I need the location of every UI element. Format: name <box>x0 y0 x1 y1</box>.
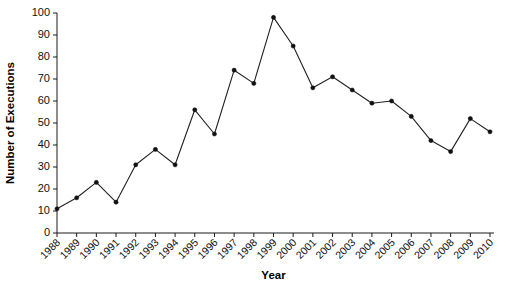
data-point-marker <box>488 130 492 134</box>
series-line-executions <box>57 17 490 208</box>
x-axis-tick-label: 2008 <box>431 236 456 261</box>
data-point-marker <box>468 117 472 121</box>
x-axis-tick-label: 2003 <box>333 236 358 261</box>
x-axis: 1988198919901991199219931994199519961997… <box>37 233 495 261</box>
x-axis-tick-label: 1990 <box>77 236 102 261</box>
y-axis-tick-label: 40 <box>38 138 50 150</box>
x-axis-tick-label: 1997 <box>215 236 240 261</box>
data-point-marker <box>173 163 177 167</box>
x-axis-tick-label: 2006 <box>392 236 417 261</box>
y-axis-tick-label: 30 <box>38 160 50 172</box>
x-axis-tick-label: 2004 <box>352 236 377 261</box>
data-point-marker <box>271 15 275 19</box>
data-point-marker <box>252 81 256 85</box>
data-point-marker <box>232 68 236 72</box>
chart-figure: 0102030405060708090100 19881989199019911… <box>0 0 520 290</box>
data-point-marker <box>193 108 197 112</box>
data-point-marker <box>409 114 413 118</box>
x-axis-tick-label: 1994 <box>156 236 181 261</box>
y-axis-tick-label: 70 <box>38 72 50 84</box>
data-point-marker <box>370 101 374 105</box>
x-axis-tick-label: 1996 <box>195 236 220 261</box>
x-axis-tick-label: 2007 <box>411 236 436 261</box>
x-axis-tick-label: 2000 <box>274 236 299 261</box>
y-axis-tick-label: 90 <box>38 28 50 40</box>
x-axis-tick-label: 2005 <box>372 236 397 261</box>
x-axis-tick-label: 2002 <box>313 236 338 261</box>
y-axis-title: Number of Executions <box>4 62 16 184</box>
y-axis-tick-label: 20 <box>38 182 50 194</box>
y-axis-tick-label: 10 <box>38 204 50 216</box>
x-axis-tick-label: 2001 <box>293 236 318 261</box>
data-point-marker <box>350 88 354 92</box>
data-point-marker <box>330 75 334 79</box>
x-axis-title: Year <box>261 269 286 281</box>
data-point-marker <box>134 163 138 167</box>
data-point-marker <box>153 147 157 151</box>
line-chart-canvas: 0102030405060708090100 19881989199019911… <box>0 0 520 290</box>
x-axis-tick-label: 1988 <box>37 236 62 261</box>
data-point-marker <box>75 196 79 200</box>
y-axis-tick-label: 0 <box>44 226 50 238</box>
x-axis-tick-label: 1998 <box>234 236 259 261</box>
x-axis-tick-label: 1989 <box>57 236 82 261</box>
y-axis-tick-label: 100 <box>32 6 50 18</box>
data-point-marker <box>94 180 98 184</box>
data-point-marker <box>311 86 315 90</box>
x-axis-tick-label: 1995 <box>175 236 200 261</box>
y-axis-tick-label: 50 <box>38 116 50 128</box>
y-axis: 0102030405060708090100 <box>32 6 57 238</box>
x-axis-tick-label: 1992 <box>116 236 141 261</box>
x-axis-tick-label: 2009 <box>451 236 476 261</box>
y-axis-tick-label: 80 <box>38 50 50 62</box>
data-point-marker <box>429 139 433 143</box>
x-axis-tick-label: 2010 <box>470 236 495 261</box>
data-point-marker <box>114 200 118 204</box>
data-point-marker <box>55 207 59 211</box>
x-axis-tick-label: 1999 <box>254 236 279 261</box>
data-point-marker <box>212 132 216 136</box>
data-point-marker <box>449 150 453 154</box>
y-axis-tick-label: 60 <box>38 94 50 106</box>
data-point-marker <box>389 99 393 103</box>
x-axis-tick-label: 1993 <box>136 236 161 261</box>
x-axis-tick-label: 1991 <box>96 236 121 261</box>
data-point-marker <box>291 44 295 48</box>
data-series-executions <box>55 15 492 211</box>
